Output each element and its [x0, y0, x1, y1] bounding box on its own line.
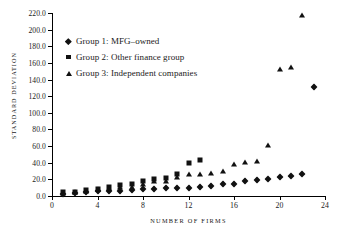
legend-label: Group 1: MFG–owned [76, 36, 159, 46]
y-tick-label: 60.0 [32, 142, 46, 151]
y-tick-label: 80.0 [32, 125, 46, 134]
x-tick-mark [280, 196, 281, 200]
x-tick-mark [52, 196, 53, 200]
diamond-marker-icon [66, 39, 75, 44]
data-point-series-3 [72, 189, 78, 194]
data-point-series-1 [219, 180, 226, 187]
y-tick-mark [48, 46, 52, 47]
chart-container: 0.020.040.060.080.0100.0120.0140.0160.01… [0, 0, 339, 238]
data-point-series-3 [106, 186, 112, 191]
x-tick-label: 0 [50, 201, 54, 210]
triangle-marker-icon [66, 71, 75, 76]
y-tick-mark [48, 30, 52, 31]
data-point-series-3 [140, 182, 146, 187]
data-point-series-3 [220, 169, 226, 174]
data-point-series-3 [288, 65, 294, 70]
data-point-series-1 [242, 177, 249, 184]
data-point-series-3 [277, 66, 283, 71]
data-point-series-3 [95, 187, 101, 192]
legend-label: Group 2: Other finance group [76, 52, 184, 62]
data-point-series-3 [208, 170, 214, 175]
data-point-series-1 [230, 180, 237, 187]
data-point-series-1 [287, 172, 294, 179]
y-tick-label: 160.0 [28, 58, 46, 67]
y-tick-label: 220.0 [28, 9, 46, 18]
legend-label: Group 3: Independent companies [76, 68, 197, 78]
data-point-series-1 [299, 170, 306, 177]
data-point-series-3 [265, 143, 271, 148]
data-point-series-3 [299, 13, 305, 18]
x-tick-mark [98, 196, 99, 200]
data-point-series-1 [265, 175, 272, 182]
y-tick-label: 0.0 [36, 192, 46, 201]
x-tick-mark [189, 196, 190, 200]
data-point-series-3 [163, 179, 169, 184]
data-point-series-3 [186, 172, 192, 177]
x-tick-label: 16 [230, 201, 238, 210]
data-point-series-3 [60, 190, 66, 195]
data-point-series-3 [174, 174, 180, 179]
y-axis-tick-labels: 0.020.040.060.080.0100.0120.0140.0160.01… [0, 0, 46, 238]
data-point-series-2 [186, 160, 191, 165]
y-tick-mark [48, 113, 52, 114]
x-tick-label: 20 [276, 201, 284, 210]
legend-item-series-1[interactable]: Group 1: MFG–owned [66, 33, 197, 49]
y-tick-mark [48, 163, 52, 164]
data-point-series-1 [208, 182, 215, 189]
legend-item-series-3[interactable]: Group 3: Independent companies [66, 65, 197, 81]
legend-item-series-2[interactable]: Group 2: Other finance group [66, 49, 197, 65]
x-tick-label: 12 [185, 201, 193, 210]
data-point-series-3 [129, 184, 135, 189]
data-point-series-3 [254, 159, 260, 164]
y-tick-label: 140.0 [28, 75, 46, 84]
data-point-series-3 [242, 159, 248, 164]
y-tick-label: 100.0 [28, 108, 46, 117]
data-point-series-3 [231, 161, 237, 166]
y-tick-label: 200.0 [28, 25, 46, 34]
y-tick-mark [48, 146, 52, 147]
x-tick-label: 4 [96, 201, 100, 210]
y-tick-label: 180.0 [28, 42, 46, 51]
data-point-series-1 [185, 184, 192, 191]
data-point-series-1 [151, 185, 158, 192]
data-point-series-1 [196, 184, 203, 191]
data-point-series-2 [197, 158, 202, 163]
y-tick-mark [48, 80, 52, 81]
y-tick-mark [48, 179, 52, 180]
x-tick-mark [234, 196, 235, 200]
y-axis-title: STANDARD DEVIATION [10, 26, 17, 166]
x-tick-label: 8 [141, 201, 145, 210]
y-tick-label: 40.0 [32, 158, 46, 167]
x-tick-label: 24 [321, 201, 329, 210]
square-marker-icon [66, 55, 75, 60]
data-point-series-3 [83, 188, 89, 193]
x-axis-title: NUMBER OF FIRMS [52, 217, 325, 224]
data-point-series-1 [310, 83, 317, 90]
x-tick-mark [143, 196, 144, 200]
data-point-series-3 [151, 179, 157, 184]
data-point-series-1 [276, 173, 283, 180]
y-tick-mark [48, 63, 52, 64]
y-tick-label: 20.0 [32, 175, 46, 184]
data-point-series-1 [253, 177, 260, 184]
y-tick-mark [48, 129, 52, 130]
data-point-series-1 [162, 185, 169, 192]
y-tick-mark [48, 196, 52, 197]
data-point-series-3 [117, 185, 123, 190]
x-tick-mark [325, 196, 326, 200]
data-point-series-1 [174, 185, 181, 192]
y-tick-mark [48, 96, 52, 97]
chart-legend: Group 1: MFG–ownedGroup 2: Other finance… [66, 33, 197, 81]
y-tick-mark [48, 13, 52, 14]
data-point-series-3 [197, 172, 203, 177]
y-tick-label: 120.0 [28, 92, 46, 101]
